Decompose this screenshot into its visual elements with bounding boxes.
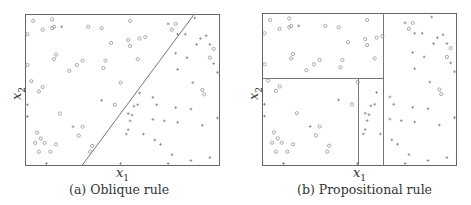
point-circle [263,32,266,35]
point-plus [45,162,48,165]
caption-b: (b) Propositional rule [297,182,432,197]
point-plus [209,43,212,46]
x-axis-label-b: x1 [353,165,366,183]
point-plus [138,92,141,95]
point-circle [39,137,42,140]
point-plus [129,119,132,122]
point-circle [32,19,35,22]
point-plus [453,70,456,73]
point-plus [174,52,177,55]
point-plus [442,33,445,36]
point-plus [427,159,430,162]
point-circle [102,66,105,69]
x-axis-label-a: x1 [116,165,129,183]
point-circle [77,134,80,137]
point-circle [286,150,289,153]
point-plus [404,162,407,165]
point-circle [407,27,410,30]
point-plus [184,33,187,36]
point-plus [216,117,219,120]
point-circle [35,131,38,134]
point-circle [54,53,57,56]
point-circle [89,150,92,153]
point-plus [449,61,452,64]
point-circle [49,150,52,153]
point-plus [212,62,215,65]
point-plus [125,133,128,136]
point-circle [366,18,369,21]
point-plus [152,118,155,121]
point-plus [186,56,189,59]
point-plus [176,121,179,124]
point-circle [100,27,103,30]
point-plus [446,42,449,45]
y-axis-label-b: x2 [246,87,264,100]
point-plus [390,138,393,141]
point-plus [209,156,212,159]
point-plus [375,91,378,94]
point-plus [411,106,414,109]
point-plus [216,71,219,74]
point-plus [438,124,441,127]
point-plus [205,34,208,37]
point-circle [53,58,56,61]
point-plus [364,112,367,115]
point-circle [290,57,293,60]
point-circle [208,56,211,59]
point-circle [136,58,139,61]
point-plus [432,42,435,45]
point-circle [280,141,283,144]
point-plus [136,103,139,106]
point-circle [37,90,40,93]
point-circle [449,46,452,49]
point-plus [309,125,312,128]
point-circle [212,47,215,50]
point-circle [440,92,443,95]
point-plus [142,133,145,136]
point-circle [68,69,71,72]
point-plus [100,99,103,102]
point-plus [337,98,340,101]
point-circle [278,85,281,88]
point-circle [375,36,378,39]
point-plus [368,113,371,116]
point-plus [453,116,456,119]
point-circle [364,38,367,41]
point-circle [274,150,277,153]
point-plus [72,125,75,128]
point-circle [350,103,353,106]
point-circle [174,22,177,25]
point-circle [291,143,294,146]
point-circle [144,35,147,38]
point-plus [430,16,433,19]
point-circle [291,52,294,55]
point-plus [413,32,416,35]
point-circle [203,93,206,96]
point-circle [312,63,315,66]
point-circle [411,21,414,24]
point-circle [129,44,132,47]
point-plus [133,105,136,108]
point-circle [129,19,132,22]
point-plus [163,119,166,122]
point-circle [305,69,308,72]
plot-frame [263,14,457,166]
point-plus [379,133,382,136]
point-circle [278,27,281,30]
point-circle [445,55,448,58]
point-circle [318,125,321,128]
point-circle [51,18,54,21]
point-circle [87,25,90,28]
point-circle [110,41,113,44]
point-plus [421,32,424,35]
point-plus [174,106,177,109]
point-plus [127,112,130,115]
point-circle [54,143,57,146]
panel-oblique-rule [26,15,220,166]
point-plus [152,96,155,99]
point-plus [413,121,416,124]
point-plus [190,108,193,111]
point-plus [413,67,416,70]
point-plus [389,96,392,99]
point-circle [170,28,173,31]
